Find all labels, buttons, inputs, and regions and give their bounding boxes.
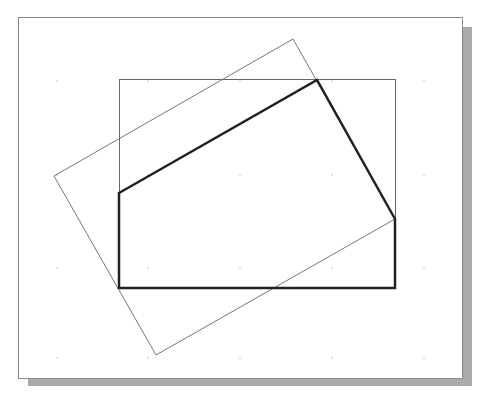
grid-dot xyxy=(56,80,58,82)
grid-dot xyxy=(56,357,58,359)
grid-dot xyxy=(331,174,333,176)
grid-dot xyxy=(239,267,241,269)
grid-dot xyxy=(147,357,149,359)
grid-dot xyxy=(423,267,425,269)
grid-dot xyxy=(147,267,149,269)
grid-dot xyxy=(239,80,241,82)
grid-dot xyxy=(331,357,333,359)
grid-dot xyxy=(239,357,241,359)
grid-dot xyxy=(423,357,425,359)
grid-dot xyxy=(56,267,58,269)
grid-dot xyxy=(423,174,425,176)
grid-dot xyxy=(239,174,241,176)
grid-dot xyxy=(423,80,425,82)
grid-dot xyxy=(331,80,333,82)
grid-dot xyxy=(331,267,333,269)
diagram-canvas xyxy=(0,0,484,397)
grid-dot xyxy=(147,80,149,82)
